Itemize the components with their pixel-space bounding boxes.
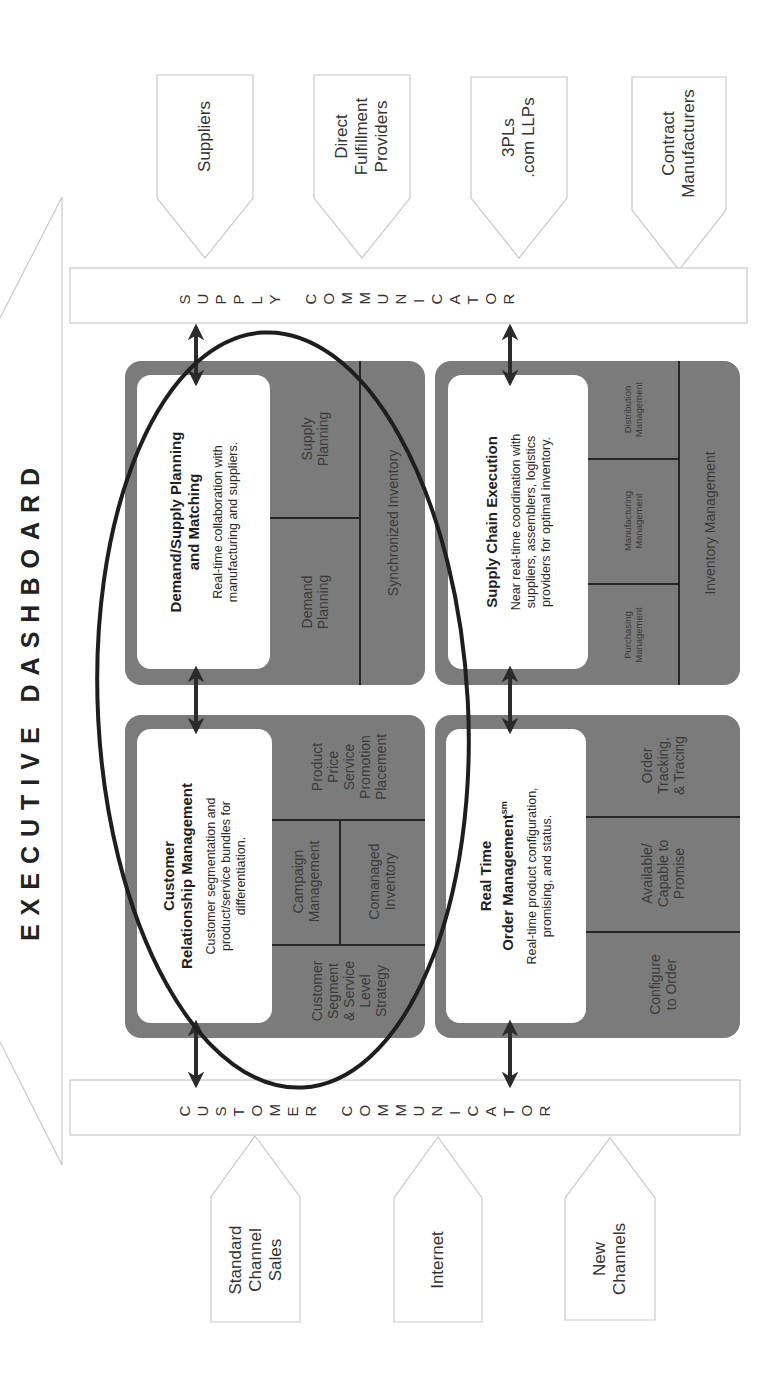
connectors bbox=[0, 0, 782, 1376]
highlight-ellipse bbox=[78, 323, 487, 1097]
